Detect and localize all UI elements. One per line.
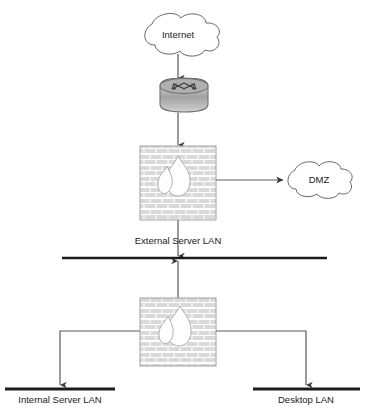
label-external-server-lan: External Server LAN xyxy=(135,235,222,246)
label-desktop-lan: Desktop LAN xyxy=(278,394,334,405)
node-internet[interactable]: Internet xyxy=(145,13,220,56)
node-router[interactable] xyxy=(160,78,208,112)
node-internet-label: Internet xyxy=(162,29,195,40)
external-server-lan-label: External Server LAN xyxy=(135,235,222,246)
node-dmz-label: DMZ xyxy=(309,174,330,185)
desktop-lan-label: Desktop LAN xyxy=(278,394,334,405)
network-diagram: Internet xyxy=(0,0,365,408)
node-firewall-internal[interactable] xyxy=(140,298,216,366)
internal-server-lan-label: Internal Server LAN xyxy=(18,394,102,405)
node-dmz[interactable]: DMZ xyxy=(288,162,352,199)
diagram-canvas: Internet xyxy=(0,0,365,408)
router-top-face xyxy=(160,79,208,94)
node-firewall-external[interactable] xyxy=(140,146,216,220)
connection-firewall-internal-to-internal-server-lan xyxy=(60,331,140,385)
connection-firewall-internal-to-desktop-lan xyxy=(216,331,306,385)
label-internal-server-lan: Internal Server LAN xyxy=(18,394,102,405)
